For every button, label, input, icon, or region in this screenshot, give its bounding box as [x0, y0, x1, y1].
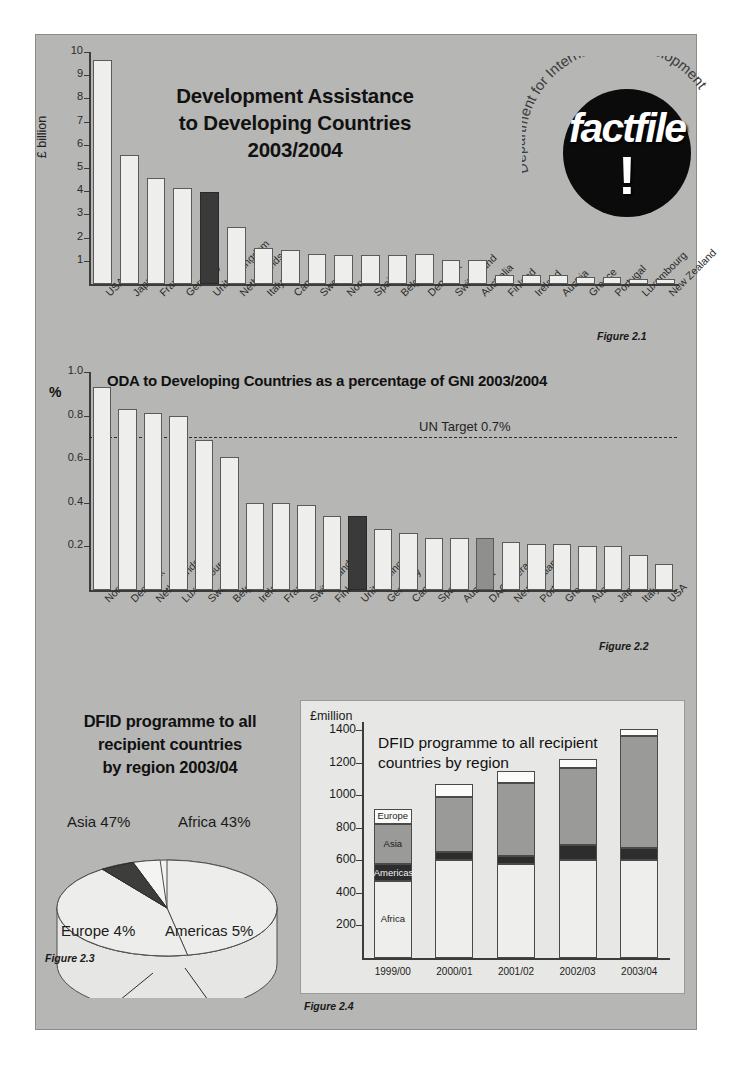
figure-2-1-y-axis-label: £ billion [35, 116, 49, 158]
y-axis-tick [84, 122, 89, 123]
bar-denmark [118, 409, 136, 590]
y-axis-tick-label: 8 [49, 90, 83, 102]
y-axis-tick [84, 546, 89, 547]
stacked-segment-label-asia: Asia [374, 838, 412, 849]
pie-slice-label-americas: Americas 5% [165, 922, 253, 939]
figure-2-2-title: ODA to Developing Countries as a percent… [107, 372, 547, 389]
figure-2-3: DFID programme to all recipient countrie… [45, 700, 295, 1000]
logo-exclamation: ! [563, 148, 691, 202]
bar-germany [374, 529, 392, 590]
bar-japan [120, 155, 139, 284]
bar-canada [281, 250, 300, 284]
figure-2-4-caption: Figure 2.4 [304, 1000, 354, 1012]
stacked-segment-asia-2000-01 [435, 797, 473, 852]
bar-norway [334, 255, 353, 284]
stacked-segment-europe-2000-01 [435, 784, 473, 797]
y-axis-tick [356, 763, 362, 764]
stacked-segment-africa-2001-02 [497, 864, 535, 958]
figure-2-4: £million DFID programme to all recipient… [300, 700, 690, 1020]
y-axis-tick [84, 52, 89, 53]
y-axis [89, 372, 91, 590]
bar-belgium [220, 457, 238, 590]
y-axis-tick [356, 893, 362, 894]
bar-belgium [388, 255, 407, 284]
y-axis-tick-label: 600 [310, 852, 356, 866]
factfile-page: Development Assistance to Developing Cou… [0, 0, 735, 1069]
y-axis-tick [84, 372, 89, 373]
stacked-segment-label-africa: Africa [374, 913, 412, 924]
y-axis [362, 722, 364, 958]
bar-australia [468, 260, 487, 284]
y-axis-tick [356, 925, 362, 926]
y-axis-tick [356, 828, 362, 829]
bar-italy [254, 248, 273, 284]
stacked-segment-label-americas: Americas [374, 867, 412, 878]
title-line-1: DFID programme to all [45, 710, 295, 733]
bar-portugal [527, 544, 545, 590]
y-axis-tick-label: 0.6 [49, 451, 83, 463]
y-axis-tick-label: 6 [49, 137, 83, 149]
figure-2-1-title: Development Assistance to Developing Cou… [145, 82, 445, 163]
stacked-segment-africa-2002-03 [559, 860, 597, 958]
bar-japan [604, 546, 622, 590]
bar-usa [655, 564, 673, 590]
y-axis-tick [356, 795, 362, 796]
bar-greece [553, 544, 571, 590]
bar-united-kingdom [348, 516, 366, 590]
bar-spain [425, 538, 443, 590]
bar-france [272, 503, 290, 590]
bar-canada [399, 533, 417, 590]
figure-2-4-title: DFID programme to all recipient countrie… [378, 733, 648, 773]
y-axis-tick-label: 7 [49, 114, 83, 126]
y-axis-tick-label: 1400 [310, 722, 356, 736]
bar-spain [361, 255, 380, 284]
stacked-segment-europe-2002-03 [559, 759, 597, 768]
stacked-segment-americas-2001-02 [497, 856, 535, 864]
dfid-factfile-logo: Department for International Development… [522, 56, 722, 246]
title-line-3: 2003/2004 [145, 136, 445, 163]
bar-norway [93, 387, 111, 590]
y-axis-tick [356, 860, 362, 861]
bar-switzerland [442, 260, 461, 284]
bar-dac-average [476, 538, 494, 590]
bar-new-zealand [502, 542, 520, 590]
bar-luxembourg [169, 416, 187, 590]
y-axis-tick-label: 2 [49, 230, 83, 242]
bar-netherlands [227, 227, 246, 284]
pie-slice-label-europe: Europe 4% [61, 922, 135, 939]
y-axis-tick-label: 1 [49, 253, 83, 265]
bar-finland [323, 516, 341, 590]
figure-2-1: Development Assistance to Developing Cou… [35, 34, 697, 359]
title-line-2: to Developing Countries [145, 109, 445, 136]
y-axis-tick-label: 9 [49, 67, 83, 79]
bar-switzerland [297, 505, 315, 590]
y-axis-tick-label: 1000 [310, 787, 356, 801]
pie-slice-label-asia: Asia 47% [67, 813, 130, 830]
figure-2-2-caption: Figure 2.2 [599, 640, 649, 652]
y-axis-tick-label: 0.8 [49, 408, 83, 420]
stacked-segment-europe-2001-02 [497, 771, 535, 783]
y-axis-tick [356, 730, 362, 731]
y-axis-tick-label: 5 [49, 160, 83, 172]
y-axis-tick [84, 459, 89, 460]
bar-france [147, 178, 166, 284]
title-line-1: Development Assistance [145, 82, 445, 109]
y-axis-tick [84, 503, 89, 504]
stacked-segment-asia-2003-04 [620, 736, 658, 848]
y-axis [89, 52, 91, 284]
stacked-segment-africa-2003-04 [620, 860, 658, 958]
bar-australia [450, 538, 468, 590]
y-axis-tick [84, 416, 89, 417]
stacked-segment-europe-2003-04 [620, 729, 658, 736]
bar-denmark [415, 254, 434, 284]
stacked-segment-africa-2000-01 [435, 860, 473, 958]
reference-line-label: UN Target 0.7% [419, 419, 511, 434]
figure-2-4-y-axis-unit: £million [310, 709, 352, 723]
stacked-segment-label-europe: Europe [374, 810, 412, 821]
y-axis-tick [84, 98, 89, 99]
bar-sweden [195, 440, 213, 590]
stacked-segment-asia-2001-02 [497, 783, 535, 856]
y-axis-tick [84, 238, 89, 239]
bar-sweden [308, 254, 327, 284]
figure-2-3-caption: Figure 2.3 [45, 952, 95, 964]
